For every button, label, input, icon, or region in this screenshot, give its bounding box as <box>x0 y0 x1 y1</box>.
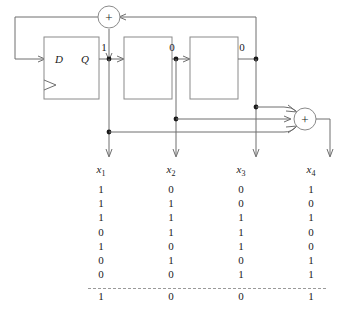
bit-cell-x2: 1 <box>136 210 206 224</box>
bit-cell-x2: 0 <box>136 239 206 253</box>
bit-cell-x4: 0 <box>276 196 346 210</box>
label-x1: x1 <box>66 163 136 178</box>
bit-cell-x4: 1 <box>276 289 346 303</box>
x4-out-wire <box>316 119 330 155</box>
bit-sequence-table: 10011100111101101010010100111001 <box>0 182 349 304</box>
label-x2: x2 <box>136 163 206 178</box>
bit-cell-x1: 1 <box>66 210 136 224</box>
bit-cell-x1: 1 <box>66 289 136 303</box>
table-row: 1100 <box>0 196 349 210</box>
bit-cell-x2: 1 <box>136 253 206 267</box>
tap-value-2: 0 <box>169 41 175 53</box>
bit-cell-x3: 0 <box>206 182 276 196</box>
flipflop-q-label: Q <box>81 53 89 65</box>
table-row: 0011 <box>0 267 349 281</box>
bit-cell-x4: 1 <box>276 182 346 196</box>
bit-cell-x4: 0 <box>276 239 346 253</box>
table-row: 1111 <box>0 210 349 224</box>
bit-cell-x4: 1 <box>276 253 346 267</box>
bit-cell-x3: 0 <box>206 289 276 303</box>
tap-value-1: 1 <box>101 41 107 53</box>
table-row: 1001 <box>0 182 349 196</box>
output-labels-row: x1 x2 x3 x4 <box>0 163 349 178</box>
bit-cell-x2: 0 <box>136 267 206 281</box>
table-row: 0110 <box>0 225 349 239</box>
register-box-2 <box>190 37 238 99</box>
register-box-1 <box>124 37 172 99</box>
bit-cell-x2: 0 <box>136 182 206 196</box>
bit-cell-x4: 1 <box>276 267 346 281</box>
bit-cell-x2: 0 <box>136 289 206 303</box>
bit-cell-x1: 1 <box>66 182 136 196</box>
bit-cell-x2: 1 <box>136 225 206 239</box>
bit-cell-x1: 0 <box>66 253 136 267</box>
label-x4: x4 <box>276 163 346 178</box>
feedback-adder-plus: + <box>105 10 112 25</box>
table-row: 1010 <box>0 239 349 253</box>
bit-cell-x1: 0 <box>66 225 136 239</box>
bit-cell-x4: 0 <box>276 225 346 239</box>
bit-cell-x4: 1 <box>276 210 346 224</box>
bit-cell-x2: 1 <box>136 196 206 210</box>
bit-cell-x1: 1 <box>66 196 136 210</box>
bit-cell-x1: 0 <box>66 267 136 281</box>
bit-cell-x3: 0 <box>206 196 276 210</box>
bit-cell-x1: 1 <box>66 239 136 253</box>
bit-cell-x3: 1 <box>206 225 276 239</box>
adder-in-wire-bot <box>109 127 296 132</box>
figure-root: + D Q 1 0 0 <box>0 0 349 320</box>
flipflop-d-label: D <box>54 53 63 65</box>
bit-cell-x3: 1 <box>206 239 276 253</box>
table-row: 0101 <box>0 253 349 267</box>
output-adder-plus: + <box>301 112 308 127</box>
bit-cell-x3: 1 <box>206 267 276 281</box>
adder-in-wire-top <box>256 107 296 111</box>
table-separator <box>88 288 326 290</box>
bit-cell-x3: 0 <box>206 253 276 267</box>
flipflop-box <box>44 37 99 99</box>
label-x3: x3 <box>206 163 276 178</box>
table-summary-row: 1001 <box>0 289 349 303</box>
tap-value-3: 0 <box>239 41 245 53</box>
bit-cell-x3: 1 <box>206 210 276 224</box>
